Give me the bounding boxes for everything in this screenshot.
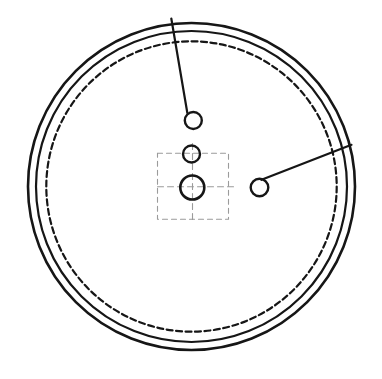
right-hole: [251, 179, 269, 197]
top-hole: [185, 112, 202, 129]
upper-middle-hole: [183, 146, 200, 163]
diagram-svg: [0, 0, 382, 379]
top-leader-line: [171, 19, 187, 113]
technical-drawing-canvas: [0, 0, 382, 379]
right-leader-line: [262, 145, 352, 180]
